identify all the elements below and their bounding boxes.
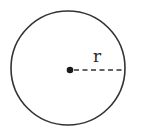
circle-diagram: r: [0, 0, 145, 130]
center-point: [67, 67, 74, 74]
radius-label: r: [93, 46, 102, 66]
